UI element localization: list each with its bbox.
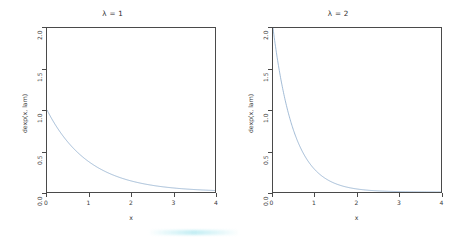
x-tick-label: 1 [306,199,322,206]
x-tick-label: 1 [81,199,97,206]
x-tick-label: 0 [38,199,54,206]
curve-path [47,110,215,190]
y-axis-label-text: dexp(x, lam) [246,79,253,149]
x-tick-label: 0 [264,199,280,206]
x-tick-label: 4 [208,199,224,206]
exponential-density-figure: λ = 1 0.0 0.5 1.0 1.5 2.0 0 1 2 [0,0,451,238]
y-axis-label-text: dexp(x, lam) [21,79,28,149]
x-axis-label: x [46,214,216,221]
x-tick-label: 2 [349,199,365,206]
x-tick-mark [357,193,358,197]
x-tick-label: 4 [434,199,450,206]
curve-path [273,28,441,192]
y-tick-label: 1.5 [37,72,44,82]
panel-title: λ = 1 [0,9,226,18]
x-tick-label: 3 [391,199,407,206]
panel-lambda-2: λ = 2 0.0 0.5 1.0 1.5 2.0 0 1 2 3 4 x [226,0,451,238]
x-tick-mark [399,193,400,197]
panel-title: λ = 2 [226,9,451,18]
panel-lambda-1: λ = 1 0.0 0.5 1.0 1.5 2.0 0 1 2 [0,0,226,238]
y-tick-label: 1.0 [37,114,44,124]
y-tick-label: 0.5 [37,155,44,165]
bottom-artifact [148,230,240,235]
y-tick-label: 2.0 [37,31,44,41]
y-tick-label: 0.5 [262,155,269,165]
x-tick-mark [174,193,175,197]
x-tick-mark [46,193,47,197]
y-tick-label: 1.0 [262,114,269,124]
x-tick-label: 3 [166,199,182,206]
plot-area [272,27,442,193]
x-tick-mark [314,193,315,197]
x-tick-label: 2 [123,199,139,206]
x-tick-mark [442,193,443,197]
x-tick-mark [216,193,217,197]
density-curve-lambda-2 [273,28,441,192]
y-tick-label: 1.5 [262,72,269,82]
y-tick-label: 2.0 [262,31,269,41]
plot-area [46,27,216,193]
x-tick-mark [89,193,90,197]
x-tick-mark [272,193,273,197]
density-curve-lambda-1 [47,28,215,192]
x-tick-mark [131,193,132,197]
x-axis-label: x [272,214,442,221]
